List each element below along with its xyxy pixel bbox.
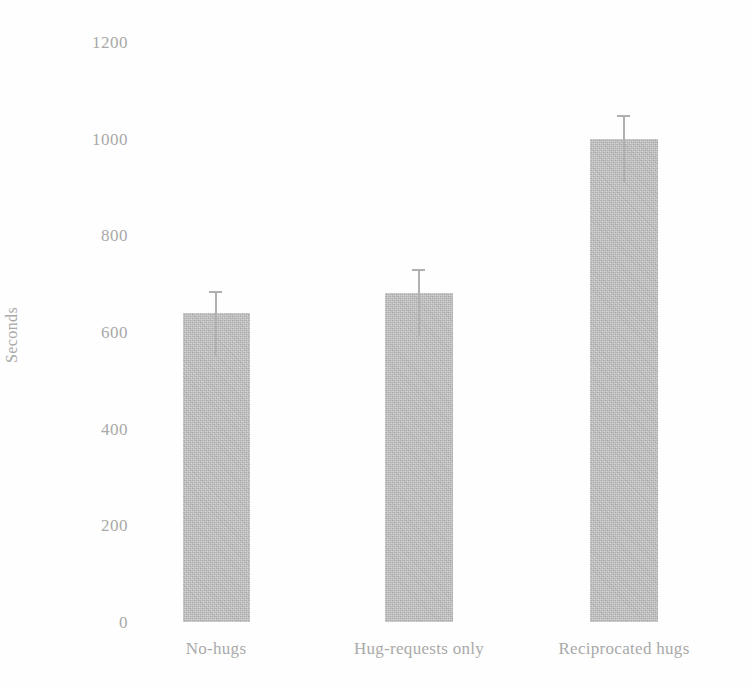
error-bar-cap-no-hugs (209, 291, 222, 293)
error-bar-stem-reciprocated-hugs (623, 115, 625, 181)
bar-hug-requests-only (385, 293, 453, 622)
bar-reciprocated-hugs (590, 139, 658, 622)
error-bar-stem-hug-requests-only (418, 269, 420, 336)
x-tick-label-no-hugs: No-hugs (186, 640, 247, 657)
error-bar-cap-hug-requests-only (412, 269, 425, 271)
x-tick-label-hug-requests-only: Hug-requests only (354, 640, 484, 657)
chart-figure: 1200 1000 800 600 400 200 0 Seconds No-h… (0, 0, 752, 689)
x-tick-label-reciprocated-hugs: Reciprocated hugs (558, 640, 689, 657)
error-bar-stem-no-hugs (215, 291, 217, 356)
error-bar-cap-reciprocated-hugs (617, 115, 630, 117)
plot-area (0, 0, 752, 689)
bar-no-hugs (183, 313, 250, 622)
